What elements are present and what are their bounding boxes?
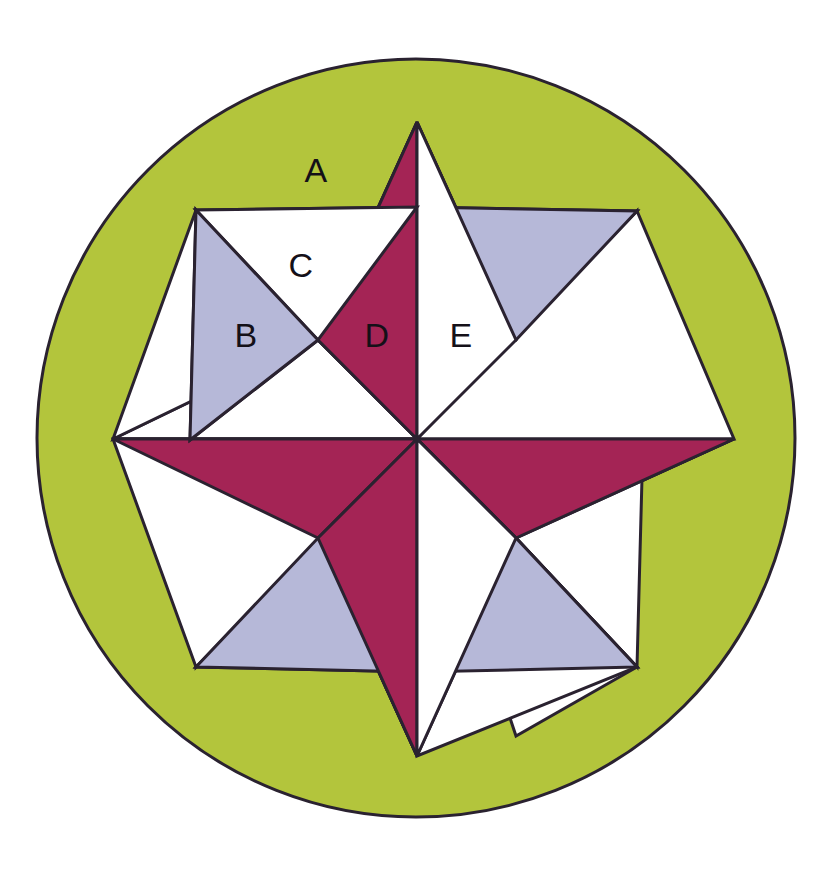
region-label-E: E — [449, 316, 472, 354]
figure-root: A B C D E — [0, 0, 839, 875]
star-diagram-svg: A B C D E — [0, 0, 839, 875]
region-label-A: A — [304, 151, 327, 189]
region-label-D: D — [364, 316, 389, 354]
region-label-C: C — [288, 246, 313, 284]
region-label-B: B — [234, 316, 257, 354]
